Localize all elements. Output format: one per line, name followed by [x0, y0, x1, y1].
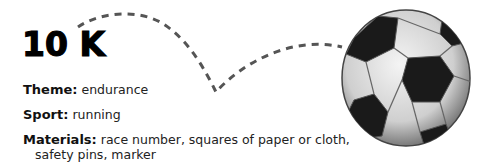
theme-label: Theme:	[23, 82, 78, 97]
materials-field: Materials: race number, squares of paper…	[23, 132, 350, 147]
materials-continuation: safety pins, marker	[35, 147, 156, 162]
sport-label: Sport:	[23, 107, 68, 122]
materials-label: Materials:	[23, 132, 97, 147]
theme-value: endurance	[82, 82, 149, 97]
sport-field: Sport: running	[23, 107, 121, 122]
theme-field: Theme: endurance	[23, 82, 148, 97]
soccer-ball-icon	[336, 6, 476, 151]
page-title: 10 K	[22, 28, 105, 61]
materials-value: race number, squares of paper or cloth,	[101, 132, 350, 147]
sport-value: running	[72, 107, 120, 122]
